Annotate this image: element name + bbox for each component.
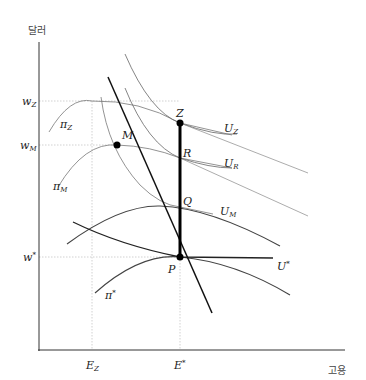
label-um: UM [220,206,236,219]
point-p-dot [177,254,184,261]
label-uz: UZ [224,123,238,136]
point-m-dot [114,142,121,149]
tick-estar: E* [174,360,186,371]
label-r: R [183,148,191,159]
label-ustar: U* [277,261,290,272]
demand-line [108,77,212,313]
point-z-dot [177,120,184,127]
label-m: M [122,130,133,141]
u-m-curve [101,97,213,214]
pi-z-curve [49,100,232,135]
label-pi-m: πM [53,181,67,194]
label-z: Z [176,108,184,119]
tick-wm: wM [20,140,37,153]
label-q: Q [183,196,192,207]
pi-m-curve [58,145,232,187]
label-p: P [168,264,175,275]
tick-ez: EZ [86,360,99,373]
u-r-line [180,158,308,216]
tick-wz: wZ [22,96,36,109]
y-axis-label: 달러 [28,26,46,36]
u-z-line [180,123,308,173]
label-pi-z: πZ [60,119,72,132]
label-ur: UR [224,158,239,171]
x-axis-label: 고용 [328,366,346,376]
tick-wstar: w* [23,252,36,263]
guide-lines [39,101,180,350]
label-pi-star: π* [105,290,116,301]
pi-star-curve [95,257,290,295]
